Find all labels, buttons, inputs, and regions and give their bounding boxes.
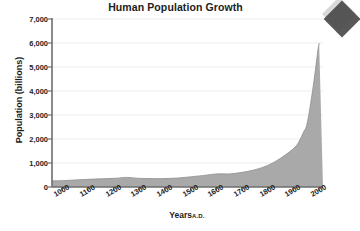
x-axis-title-era: A.D.: [192, 213, 205, 219]
x-axis-title-main: Years: [169, 210, 192, 220]
x-axis-title: YearsA.D.: [52, 210, 322, 220]
gridlines: [52, 19, 323, 163]
